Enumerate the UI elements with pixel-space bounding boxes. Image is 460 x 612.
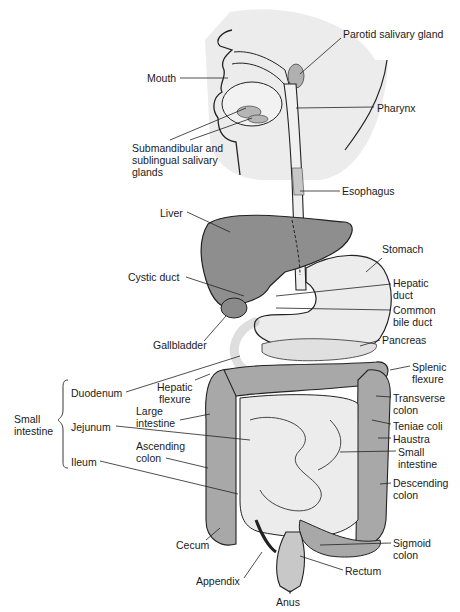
- label-appendix: Appendix: [196, 575, 240, 587]
- label-common-bile-duct: Common bile duct: [393, 304, 436, 328]
- label-duodenum: Duodenum: [71, 387, 122, 399]
- pancreas: [262, 339, 377, 361]
- label-submandibular: Submandibular and sublingual salivary gl…: [132, 142, 223, 178]
- label-esophagus: Esophagus: [342, 185, 395, 197]
- label-haustra: Haustra: [393, 433, 430, 445]
- label-liver: Liver: [160, 207, 183, 219]
- label-mouth: Mouth: [147, 72, 176, 84]
- label-transverse-colon: Transverse colon: [393, 392, 445, 416]
- rectum: [277, 532, 305, 592]
- label-cystic-duct: Cystic duct: [128, 271, 179, 283]
- label-stomach: Stomach: [382, 243, 423, 255]
- label-sigmoid-colon: Sigmoid colon: [393, 537, 431, 561]
- label-splenic-flexure: Splenic flexure: [412, 361, 446, 385]
- label-pancreas: Pancreas: [382, 334, 426, 346]
- digestive-system-illustration: [0, 0, 460, 612]
- label-pharynx: Pharynx: [377, 102, 416, 114]
- gallbladder: [221, 298, 247, 318]
- label-hepatic-flexure: Hepatic flexure: [157, 381, 193, 405]
- label-rectum: Rectum: [345, 565, 381, 577]
- small-intestine: [240, 395, 358, 537]
- label-jejunum: Jejunum: [71, 421, 111, 433]
- label-hepatic-duct: Hepatic duct: [393, 277, 429, 301]
- label-gallbladder: Gallbladder: [153, 339, 207, 351]
- large-intestine: [206, 369, 236, 545]
- label-small-intestine-group: Small intestine: [14, 413, 53, 437]
- small-intestine-bracket: [58, 380, 68, 468]
- label-parotid: Parotid salivary gland: [343, 28, 443, 40]
- label-ileum: Ileum: [71, 456, 97, 468]
- label-large-intestine: Large intestine: [136, 405, 175, 429]
- label-cecum: Cecum: [176, 539, 209, 551]
- descending-colon: [356, 370, 390, 545]
- label-anus: Anus: [276, 596, 300, 608]
- label-ascending-colon: Ascending colon: [136, 440, 185, 464]
- label-descending-colon: Descending colon: [393, 477, 448, 501]
- label-small-intestine: Small intestine: [398, 446, 437, 470]
- label-teniae-coli: Teniae coli: [393, 420, 443, 432]
